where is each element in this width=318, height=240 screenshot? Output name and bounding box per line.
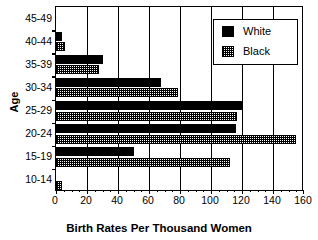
y-tick-label-20-24: 20-24 <box>6 128 52 138</box>
bar-black-25-29 <box>56 112 237 121</box>
y-tick-label-25-29: 25-29 <box>6 105 52 115</box>
y-tick-label-45-49: 45-49 <box>6 13 52 23</box>
x-tick-label-40: 40 <box>102 194 132 206</box>
birth-rates-bar-chart: Age 45-4940-4435-3930-3425-2920-2415-191… <box>0 0 318 240</box>
bar-white-15-19 <box>56 147 134 156</box>
bar-black-40-44 <box>56 42 65 51</box>
bar-white-35-39 <box>56 55 103 64</box>
y-tick-label-15-19: 15-19 <box>6 151 52 161</box>
x-tick-label-0: 0 <box>40 194 70 206</box>
x-minor-tick-25 <box>95 190 96 192</box>
x-minor-tick-30 <box>103 190 104 192</box>
x-minor-tick-105 <box>219 190 220 192</box>
x-minor-tick-70 <box>165 190 166 192</box>
bar-black-30-34 <box>56 88 178 97</box>
x-tick-label-140: 140 <box>257 194 287 206</box>
x-minor-tick-35 <box>110 190 111 192</box>
x-minor-tick-15 <box>79 190 80 192</box>
chart-legend: White Black <box>213 19 298 65</box>
legend-swatch-black-icon <box>222 46 234 57</box>
legend-label-white: White <box>243 25 271 38</box>
x-minor-tick-135 <box>265 190 266 192</box>
x-minor-tick-85 <box>188 190 189 192</box>
x-minor-tick-75 <box>172 190 173 192</box>
y-tick-label-40-44: 40-44 <box>6 36 52 46</box>
x-minor-tick-155 <box>296 190 297 192</box>
x-tick-label-20: 20 <box>71 194 101 206</box>
x-minor-tick-95 <box>203 190 204 192</box>
bar-white-25-29 <box>56 101 242 110</box>
x-minor-tick-115 <box>234 190 235 192</box>
bar-white-30-34 <box>56 78 161 87</box>
bar-black-20-24 <box>56 135 296 144</box>
y-tick-label-10-14: 10-14 <box>6 174 52 184</box>
y-tick-10-14 <box>52 169 56 170</box>
y-tick-label-35-39: 35-39 <box>6 59 52 69</box>
x-tick-label-80: 80 <box>164 194 194 206</box>
y-tick-label-30-34: 30-34 <box>6 82 52 92</box>
x-minor-tick-55 <box>141 190 142 192</box>
x-minor-tick-10 <box>72 190 73 192</box>
x-minor-tick-90 <box>196 190 197 192</box>
bar-black-15-19 <box>56 158 230 167</box>
legend-swatch-white-icon <box>222 26 234 37</box>
x-minor-tick-110 <box>227 190 228 192</box>
x-minor-tick-125 <box>250 190 251 192</box>
x-tick-label-160: 160 <box>288 194 318 206</box>
x-minor-tick-5 <box>64 190 65 192</box>
bar-black-10-14 <box>56 181 62 190</box>
x-minor-tick-65 <box>157 190 158 192</box>
x-minor-tick-50 <box>134 190 135 192</box>
legend-label-black: Black <box>243 45 270 58</box>
bar-white-40-44 <box>56 32 62 41</box>
x-minor-tick-145 <box>281 190 282 192</box>
x-axis-title: Birth Rates Per Thousand Women <box>0 222 318 234</box>
bar-white-20-24 <box>56 124 236 133</box>
x-tick-label-100: 100 <box>195 194 225 206</box>
x-minor-tick-150 <box>289 190 290 192</box>
x-tick-label-120: 120 <box>226 194 256 206</box>
bar-black-35-39 <box>56 65 99 74</box>
x-tick-label-60: 60 <box>133 194 163 206</box>
x-minor-tick-130 <box>258 190 259 192</box>
x-minor-tick-45 <box>126 190 127 192</box>
